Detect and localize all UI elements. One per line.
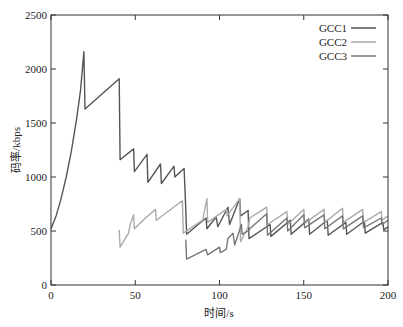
legend-label: GCC2 <box>319 36 347 48</box>
y-tick-label: 2500 <box>25 9 48 21</box>
y-tick-label: 0 <box>42 279 48 291</box>
x-tick-label: 0 <box>48 289 54 301</box>
y-tick-label: 500 <box>31 225 48 237</box>
legend-item-gcc3: GCC3 <box>319 50 376 62</box>
legend-label: GCC1 <box>319 22 347 34</box>
legend-label: GCC3 <box>319 50 348 62</box>
y-tick-label: 2000 <box>25 63 48 75</box>
y-tick-label: 1000 <box>25 171 48 183</box>
legend-item-gcc1: GCC1 <box>319 22 376 34</box>
x-tick-label: 150 <box>296 289 313 301</box>
series-gcc1 <box>51 52 388 239</box>
legend-item-gcc2: GCC2 <box>319 36 376 48</box>
x-axis-label: 时间/s <box>204 307 233 319</box>
legend: GCC1 GCC2 GCC3 <box>319 22 376 62</box>
x-tick-label: 200 <box>380 289 397 301</box>
y-tick-label: 1500 <box>25 117 48 129</box>
line-chart: 050100150200 05001000150020002500 时间/s 码… <box>0 0 403 327</box>
x-tick-label: 50 <box>130 289 142 301</box>
series-layer <box>51 52 388 259</box>
y-axis-label: 码率/kbps <box>9 127 22 173</box>
series-gcc2 <box>119 199 388 248</box>
x-tick-label: 100 <box>211 289 228 301</box>
